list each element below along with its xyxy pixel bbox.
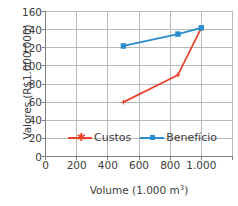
chart-container: Valores (R$1.000.000) 020406080100120140… (0, 0, 238, 206)
square-marker-icon (150, 135, 155, 140)
x-axis-title: Volume (1.000 m3) (45, 184, 233, 196)
legend-swatch-beneficio (140, 132, 164, 143)
x-axis-tick-labels: 02004006008001.000 (0, 0, 238, 206)
legend-swatch-custos: ✱ (68, 132, 92, 143)
legend-label-beneficio: Benefício (166, 131, 217, 144)
x-tick-label: 1.000 (181, 160, 221, 171)
x-axis-title-tail: ) (184, 184, 188, 196)
x-axis-title-base: Volume (1.000 m (90, 184, 180, 196)
chart-legend: ✱ Custos Benefício (68, 131, 217, 144)
legend-label-custos: Custos (94, 131, 131, 144)
legend-entry-custos[interactable]: ✱ Custos (68, 131, 131, 144)
legend-entry-beneficio[interactable]: Benefício (140, 131, 217, 144)
star-marker-icon: ✱ (77, 133, 86, 143)
